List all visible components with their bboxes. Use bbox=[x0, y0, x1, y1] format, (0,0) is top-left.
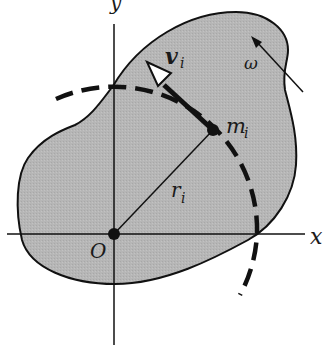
rigid-body-rotation-diagram: y x O v i m i r i ω bbox=[0, 0, 329, 358]
mass-label-subscript: i bbox=[244, 125, 248, 141]
mass-label: m bbox=[226, 114, 246, 138]
radius-label-subscript: i bbox=[181, 190, 185, 206]
origin-point bbox=[108, 228, 120, 240]
velocity-label: v bbox=[165, 43, 178, 69]
mass-particle bbox=[207, 124, 219, 136]
x-axis-label: x bbox=[310, 224, 323, 249]
origin-label: O bbox=[90, 239, 106, 263]
velocity-label-subscript: i bbox=[180, 55, 184, 71]
diagram-canvas: y x O v i m i r i ω bbox=[0, 0, 329, 358]
y-axis-label: y bbox=[109, 0, 122, 15]
angular-velocity-label: ω bbox=[244, 53, 258, 73]
